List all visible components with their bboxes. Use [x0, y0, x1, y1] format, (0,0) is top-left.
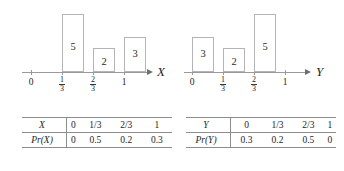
table-cell: 0	[324, 133, 336, 148]
table-cell: 0	[67, 118, 80, 133]
x-tick-label-1-3: 1 3	[52, 76, 72, 93]
chart-x: X 5 2 3 0 1 3	[0, 0, 172, 100]
bar-y-2: 2	[223, 48, 245, 72]
table-cell: 0	[67, 133, 80, 148]
bar-x-3-label: 3	[125, 48, 145, 59]
fraction-denominator: 3	[90, 84, 96, 93]
probability-table-x: X 0 1/3 2/3 1 Pr(X) 0 0.5 0.2 0.3	[22, 117, 172, 148]
table-rowhead-x: X	[22, 118, 67, 133]
table-row: Y 0 1/3 2/3 1	[186, 118, 336, 133]
fraction-numerator: 2	[251, 76, 257, 84]
bar-x-2: 2	[93, 48, 115, 72]
table-cell: 1/3	[262, 118, 293, 133]
table-cell: 0.3	[231, 133, 263, 148]
table-cell: 0.2	[262, 133, 293, 148]
bar-x-1-label: 5	[63, 41, 83, 52]
table-row: X 0 1/3 2/3 1	[22, 118, 172, 133]
chart-y: Y 3 2 5 0 1 3	[172, 0, 344, 100]
fraction-denominator: 3	[251, 84, 257, 93]
table-cell: 0.2	[111, 133, 142, 148]
fraction-numerator: 2	[90, 76, 96, 84]
y-axis-name: Y	[316, 64, 323, 80]
table-row: Pr(Y) 0.3 0.2 0.5 0	[186, 133, 336, 148]
y-axis-arrow-icon	[305, 69, 311, 75]
fraction-denominator: 3	[220, 84, 226, 93]
y-tick-label-0-text: 0	[190, 77, 195, 87]
fraction-denominator: 3	[59, 84, 65, 93]
fraction-one-third: 1 3	[59, 76, 65, 93]
x-tick-0	[31, 70, 32, 75]
bar-x-2-label: 2	[94, 56, 114, 67]
fraction-two-thirds: 2 3	[90, 76, 96, 93]
table-rowhead-y: Y	[186, 118, 231, 133]
table-row: Pr(X) 0 0.5 0.2 0.3	[22, 133, 172, 148]
x-axis-arrow-icon	[147, 69, 153, 75]
fraction-numerator: 1	[220, 76, 226, 84]
bar-y-1-label: 3	[193, 48, 213, 59]
y-tick-label-1-3: 1 3	[213, 76, 233, 93]
table-cell: 2/3	[293, 118, 324, 133]
table-cell: 0.5	[293, 133, 324, 148]
y-tick-label-1-text: 1	[283, 77, 288, 87]
fraction-two-thirds: 2 3	[251, 76, 257, 93]
x-tick-label-2-3: 2 3	[83, 76, 103, 93]
bar-y-2-label: 2	[224, 56, 244, 67]
x-axis-line	[22, 72, 147, 73]
x-axis-name: X	[157, 64, 165, 80]
y-tick-label-1: 1	[275, 78, 295, 88]
table-cell: 0	[231, 118, 263, 133]
bar-y-1: 3	[192, 37, 214, 72]
bar-x-1: 5	[62, 14, 84, 72]
table-cell: 0.3	[142, 133, 172, 148]
fraction-numerator: 1	[59, 76, 65, 84]
table-cell: 2/3	[111, 118, 142, 133]
x-tick-label-0-text: 0	[29, 77, 34, 87]
x-tick-label-0: 0	[21, 78, 41, 88]
plot-area-x: X 5 2 3 0 1 3	[0, 0, 172, 100]
probability-distributions-figure: X 5 2 3 0 1 3	[0, 0, 344, 171]
table-rowhead-prx: Pr(X)	[22, 133, 67, 148]
probability-table-y: Y 0 1/3 2/3 1 Pr(Y) 0.3 0.2 0.5 0	[186, 117, 336, 148]
table-cell: 1	[324, 118, 336, 133]
table-cell: 0.5	[80, 133, 111, 148]
table-cell: 1/3	[80, 118, 111, 133]
fraction-one-third: 1 3	[220, 76, 226, 93]
y-axis-line	[184, 72, 305, 73]
y-tick-label-2-3: 2 3	[244, 76, 264, 93]
y-tick-1	[285, 70, 286, 75]
y-tick-label-0: 0	[182, 78, 202, 88]
bar-x-3: 3	[124, 37, 146, 72]
x-tick-label-1: 1	[114, 78, 134, 88]
x-tick-label-1-text: 1	[122, 77, 127, 87]
table-cell: 1	[142, 118, 172, 133]
bar-y-3: 5	[254, 14, 276, 72]
bar-y-3-label: 5	[255, 41, 275, 52]
table-rowhead-pry: Pr(Y)	[186, 133, 231, 148]
plot-area-y: Y 3 2 5 0 1 3	[172, 0, 344, 100]
